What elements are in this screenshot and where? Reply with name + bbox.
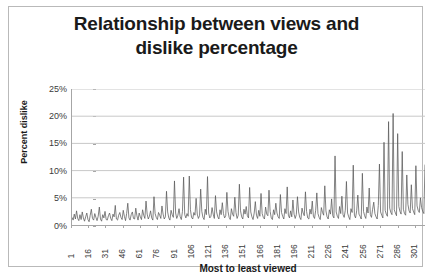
y-axis-tick-label: 15%	[39, 139, 67, 148]
x-axis-tick-label: 121	[203, 244, 212, 258]
x-axis-tick-label: 286	[393, 244, 402, 258]
y-axis-tick-label: 10%	[39, 167, 67, 176]
x-axis-tick-mark	[88, 225, 89, 228]
y-axis-tick-label: 20%	[39, 112, 67, 121]
gridlines	[72, 89, 425, 198]
x-axis-tick-label: 76	[152, 249, 161, 258]
x-axis-tick-mark	[105, 225, 106, 228]
x-axis-tick-mark	[71, 225, 72, 228]
y-axis-tick-label: 5%	[39, 194, 67, 203]
x-axis-tick-mark	[140, 225, 141, 228]
x-axis-tick-label: 106	[186, 244, 195, 258]
x-axis-tick-label: 181	[272, 244, 281, 258]
x-axis-tick-label: 31	[100, 249, 109, 258]
x-axis-tick-label: 226	[324, 244, 333, 258]
x-axis-tick-mark	[226, 225, 227, 228]
y-axis-tick-label: 0%	[39, 222, 67, 231]
y-axis-labels: 0%5%10%15%20%25%	[35, 7, 67, 280]
chart-title-line-1: Relationship between views and	[74, 13, 359, 34]
x-axis-tick-label: 271	[375, 244, 384, 258]
x-axis-title: Most to least viewed	[71, 263, 425, 274]
x-axis-tick-mark	[123, 225, 124, 228]
chart-title-line-2: dislike percentage	[39, 36, 394, 60]
chart-container: Relationship between views and dislike p…	[8, 6, 423, 267]
x-axis-tick-label: 196	[289, 244, 298, 258]
x-axis-tick-mark	[277, 225, 278, 228]
x-axis-tick-label: 46	[118, 249, 127, 258]
y-axis-title: Percent dislike	[19, 87, 29, 177]
chart-title: Relationship between views and dislike p…	[39, 12, 394, 60]
series-path	[72, 113, 425, 221]
x-axis-tick-label: 301	[410, 244, 419, 258]
x-axis-tick-mark	[243, 225, 244, 228]
series-line-percent-dislike	[72, 89, 425, 225]
x-axis-tick-mark	[346, 225, 347, 228]
x-axis-tick-mark	[329, 225, 330, 228]
x-axis-tick-mark	[157, 225, 158, 228]
x-axis-tick-label: 91	[169, 249, 178, 258]
x-axis-labels: 1163146617691106121136151166181196211226…	[71, 228, 425, 258]
x-axis-tick-mark	[174, 225, 175, 228]
x-axis-tick-label: 1	[66, 253, 75, 258]
x-axis-tick-mark	[312, 225, 313, 228]
x-axis-tick-mark	[415, 225, 416, 228]
x-axis-tick-label: 241	[341, 244, 350, 258]
x-axis-tick-label: 166	[255, 244, 264, 258]
x-axis-tick-label: 211	[307, 244, 316, 258]
plot-area	[71, 89, 425, 226]
x-axis-tick-label: 256	[358, 244, 367, 258]
x-axis-tick-mark	[363, 225, 364, 228]
x-axis-tick-mark	[191, 225, 192, 228]
x-axis-tick-mark	[208, 225, 209, 228]
x-axis-tick-mark	[260, 225, 261, 228]
y-axis-tick-mark	[93, 226, 96, 227]
x-axis-tick-label: 16	[83, 249, 92, 258]
x-axis-tick-mark	[380, 225, 381, 228]
x-axis-tick-mark	[294, 225, 295, 228]
x-axis-tick-label: 136	[221, 244, 230, 258]
x-axis-tick-label: 61	[135, 249, 144, 258]
x-axis-tick-mark	[398, 225, 399, 228]
y-axis-tick-label: 25%	[39, 85, 67, 94]
x-axis-tick-label: 151	[238, 244, 247, 258]
